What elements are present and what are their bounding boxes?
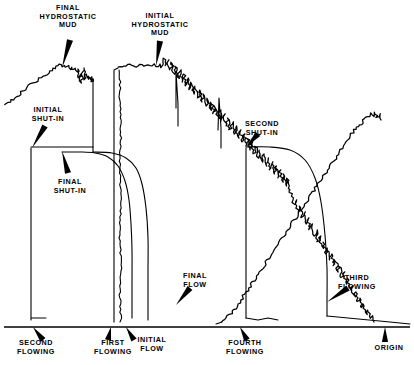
chart-canvas — [0, 0, 414, 365]
chart-background — [0, 0, 414, 365]
dst-pressure-chart: FINAL HYDROSTATIC MUDINITIAL HYDROSTATIC… — [0, 0, 414, 365]
